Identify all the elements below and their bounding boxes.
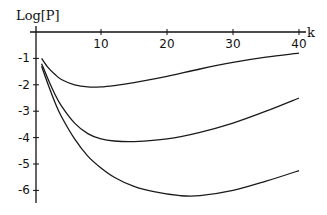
x-tick-label: 40 (291, 37, 306, 51)
x-tick-label: 10 (93, 37, 108, 51)
y-tick-label: -4 (18, 131, 30, 145)
series-lines (42, 53, 299, 196)
log-p-vs-k-chart: 10203040 -1-2-3-4-5-6 Log[P] k (0, 0, 327, 215)
y-tick-label: -2 (18, 78, 30, 92)
curve-top-line (42, 53, 299, 87)
y-axis-label: Log[P] (16, 8, 60, 23)
y-tick-label: -1 (18, 51, 30, 65)
x-tick-label: 20 (159, 37, 174, 51)
y-tick-label: -5 (18, 157, 30, 171)
axes (30, 26, 306, 203)
x-tick-label: 30 (225, 37, 240, 51)
x-axis-label: k (307, 25, 315, 40)
y-tick-label: -6 (18, 183, 30, 197)
y-tick-label: -3 (18, 104, 30, 118)
